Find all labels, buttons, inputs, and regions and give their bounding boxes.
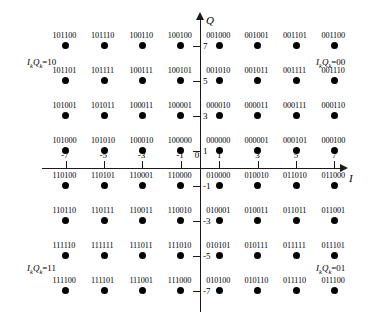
constellation-point-label: 100011 [129,102,153,110]
q-axis-tick-label: 7 [203,42,208,51]
q-axis-tick [193,81,200,82]
constellation-point-label: 001000 [206,32,230,40]
constellation-point [139,42,146,49]
constellation-point-label: 001101 [283,32,307,40]
constellation-point-label: 111100 [53,277,76,285]
constellation-point [254,112,261,119]
constellation-point-label: 010011 [245,207,269,215]
constellation-point [293,77,300,84]
constellation-point [139,147,146,154]
constellation-point-label: 101110 [91,32,114,40]
constellation-point [293,147,300,154]
constellation-point-label: 100101 [168,67,192,75]
quad-bl-eq: =11 [42,263,56,273]
constellation-point-label: 110110 [53,207,76,215]
constellation-point [293,182,300,189]
q-axis-tick [193,46,200,47]
constellation-point [331,147,338,154]
constellation-point [62,287,69,294]
constellation-point [177,77,184,84]
constellation-point-label: 101010 [91,137,115,145]
constellation-point-label: 001111 [283,67,306,75]
constellation-point-label: 000100 [321,137,345,145]
quadrant-label-top-right: IkQk=00 [316,58,345,70]
constellation-point [62,42,69,49]
constellation-point [62,217,69,224]
constellation-point-label: 000111 [283,102,306,110]
i-axis-tick [142,161,143,168]
q-axis-tick-label: -7 [203,287,211,296]
q-axis-tick-label: 3 [203,112,208,121]
q-axis-tick [193,116,200,117]
constellation-point [216,77,223,84]
quad-br-eq: =01 [331,263,345,273]
constellation-point-label: 110010 [168,207,192,215]
i-axis-tick [296,161,297,168]
quadrant-label-bottom-right: IkQk=01 [316,264,345,276]
constellation-point-label: 001010 [206,67,230,75]
constellation-point-label: 010100 [206,277,230,285]
constellation-point-label: 000101 [283,137,307,145]
constellation-point [216,42,223,49]
quadrant-label-top-left: IkQk=10 [27,58,56,70]
constellation-point [331,112,338,119]
constellation-point-label: 011101 [321,242,344,250]
q-axis-tick [193,151,200,152]
constellation-point-label: 100100 [168,32,192,40]
i-axis-line [42,168,342,169]
constellation-point [177,287,184,294]
constellation-point [293,252,300,259]
constellation-point-label: 000011 [245,102,269,110]
constellation-point-label: 100010 [129,137,153,145]
constellation-point [139,112,146,119]
constellation-point-label: 110101 [91,172,115,180]
i-axis-tick [334,161,335,168]
constellation-point [331,252,338,259]
constellation-point [293,287,300,294]
constellation-point [254,77,261,84]
constellation-point [101,182,108,189]
constellation-point-label: 011000 [321,172,345,180]
constellation-point [254,42,261,49]
constellation-point-label: 110000 [168,172,192,180]
constellation-point-label: 100110 [129,32,153,40]
constellation-point-label: 111111 [91,242,113,250]
constellation-point-label: 111000 [168,277,191,285]
constellation-point [293,112,300,119]
constellation-point [331,182,338,189]
constellation-point [139,287,146,294]
constellation-point-label: 000000 [206,137,230,145]
q-axis-tick-label: -5 [203,252,211,261]
constellation-point-label: 111101 [91,277,114,285]
constellation-point [101,77,108,84]
constellation-point [177,182,184,189]
constellation-point-label: 101100 [53,32,77,40]
constellation-point-label: 000110 [321,102,345,110]
constellation-point [101,147,108,154]
constellation-point [216,217,223,224]
constellation-point-label: 111011 [129,242,152,250]
quad-tl-eq: =10 [42,57,56,67]
constellation-point [177,217,184,224]
constellation-point [62,112,69,119]
constellation-point [101,42,108,49]
i-axis-label: I [349,173,353,184]
constellation-point [101,287,108,294]
quad-tr-eq: =00 [331,57,345,67]
constellation-point [254,147,261,154]
constellation-point-label: 110100 [53,172,77,180]
constellation-point [62,77,69,84]
q-axis-arrow-icon [196,12,204,20]
q-axis-tick-label: -3 [203,217,211,226]
constellation-point [101,252,108,259]
constellation-point [177,252,184,259]
constellation-point [62,182,69,189]
constellation-point [101,217,108,224]
constellation-point-label: 111110 [53,242,76,250]
constellation-point [139,77,146,84]
constellation-point-label: 010111 [245,242,268,250]
constellation-point [254,252,261,259]
constellation-point [216,252,223,259]
constellation-point-label: 011100 [321,277,344,285]
constellation-point [254,182,261,189]
